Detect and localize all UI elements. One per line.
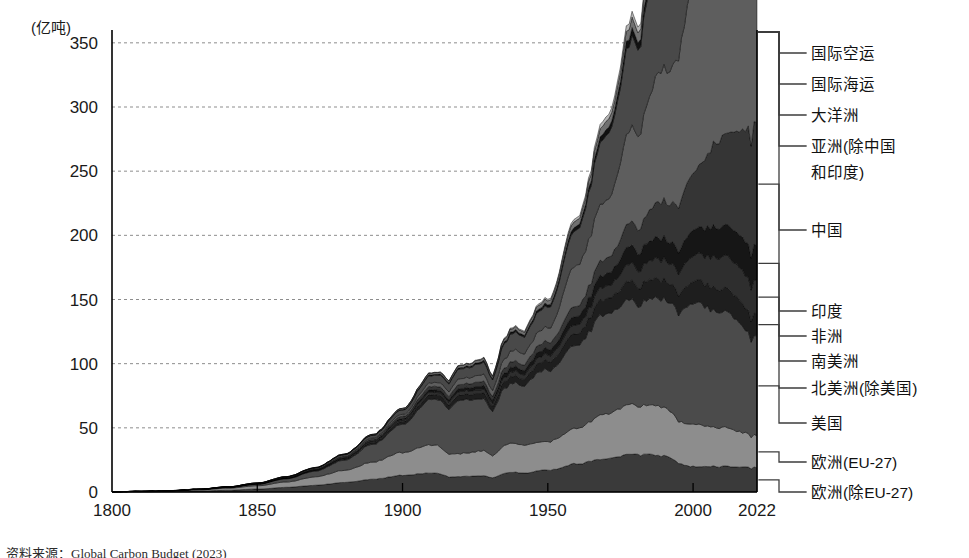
source-note: 资料来源：Global Carbon Budget (2023) xyxy=(6,546,227,558)
legend-leader-line xyxy=(759,184,806,311)
y-tick-label: 100 xyxy=(70,355,98,374)
y-tick-label: 150 xyxy=(70,291,98,310)
legend-label[interactable]: 北美洲(除美国) xyxy=(811,380,917,397)
legend-leader-line xyxy=(759,32,806,84)
legend-leader-line xyxy=(759,32,806,115)
legend-label[interactable]: 非洲 xyxy=(811,328,843,345)
x-tick-labels-group: 180018501900195020002022 xyxy=(93,501,776,520)
y-tick-label: 300 xyxy=(70,98,98,117)
legend-label[interactable]: 中国 xyxy=(811,222,843,239)
y-tick-label: 0 xyxy=(89,483,98,502)
x-tick-label: 1800 xyxy=(93,501,131,520)
legend-leader-line xyxy=(759,325,806,388)
x-tick-label: 1850 xyxy=(238,501,276,520)
legend-label[interactable]: 国际空运 xyxy=(811,45,875,62)
y-tick-labels-group: 050100150200250300350 xyxy=(70,34,98,502)
legend-label[interactable]: 大洋洲 xyxy=(811,107,859,124)
legend-label[interactable]: 亚洲(除中国和印度) xyxy=(811,138,896,181)
x-tick-label: 2022 xyxy=(738,501,776,520)
legend-group: 国际空运国际海运大洋洲亚洲(除中国和印度)中国印度非洲南美洲北美洲(除美国)美国… xyxy=(759,32,917,501)
area-bands-group xyxy=(112,0,757,492)
stacked-area-chart: 050100150200250300350 180018501900195020… xyxy=(0,0,969,558)
y-axis-unit-label: (亿吨) xyxy=(31,19,71,36)
x-tick-label: 1950 xyxy=(529,501,567,520)
legend-leader-line xyxy=(759,480,806,492)
y-tick-label: 350 xyxy=(70,34,98,53)
y-tick-label: 50 xyxy=(79,419,98,438)
legend-leader-line xyxy=(759,32,806,230)
legend-leader-line xyxy=(759,32,806,53)
x-tick-label: 1900 xyxy=(384,501,422,520)
legend-label[interactable]: 欧洲(除EU-27) xyxy=(811,484,913,501)
legend-leader-line xyxy=(759,386,806,423)
legend-label[interactable]: 美国 xyxy=(811,415,843,432)
legend-label[interactable]: 欧洲(EU-27) xyxy=(811,454,897,471)
x-tick-label: 2000 xyxy=(674,501,712,520)
legend-label[interactable]: 南美洲 xyxy=(811,353,859,370)
legend-leader-line xyxy=(759,297,806,361)
legend-leader-line xyxy=(759,452,806,462)
y-tick-label: 250 xyxy=(70,162,98,181)
legend-label[interactable]: 印度 xyxy=(811,303,843,320)
legend-label[interactable]: 国际海运 xyxy=(811,76,875,93)
figure-container: 050100150200250300350 180018501900195020… xyxy=(0,0,969,558)
legend-leader-line xyxy=(759,32,806,146)
y-tick-label: 200 xyxy=(70,226,98,245)
